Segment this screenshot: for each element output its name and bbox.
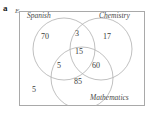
region-value-outside-all: 5 [29, 86, 39, 94]
region-value-chemistry-only: 17 [100, 33, 114, 41]
region-value-mathematics-only: 85 [71, 78, 85, 86]
region-value-spanish-only: 70 [38, 33, 52, 41]
set-label-chemistry: Chemistry [99, 12, 130, 20]
region-value-all-three: 15 [72, 48, 86, 56]
figure-part-label: a [3, 4, 8, 13]
set-label-mathematics: Mathematics [90, 94, 129, 102]
set-label-spanish: Spanish [27, 12, 51, 20]
figure-panel: a E Spanish Chemistry Mathematics 70 3 1… [0, 0, 151, 114]
region-value-spanish-chemistry: 3 [72, 30, 82, 38]
region-value-chemistry-mathematics: 60 [89, 62, 103, 70]
region-value-spanish-mathematics: 5 [54, 62, 64, 70]
